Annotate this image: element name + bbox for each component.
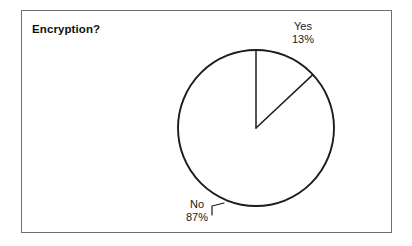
- slice-label-no: No 87%: [176, 198, 218, 224]
- pie-chart-figure: Encryption? Yes 13% No 87%: [0, 0, 412, 246]
- page-title: Encryption?: [32, 23, 100, 35]
- slice-label-yes-percent: 13%: [282, 33, 324, 46]
- slice-label-yes: Yes 13%: [282, 20, 324, 46]
- slice-label-yes-name: Yes: [282, 20, 324, 33]
- slice-label-no-percent: 87%: [176, 211, 218, 224]
- slice-label-no-name: No: [176, 198, 218, 211]
